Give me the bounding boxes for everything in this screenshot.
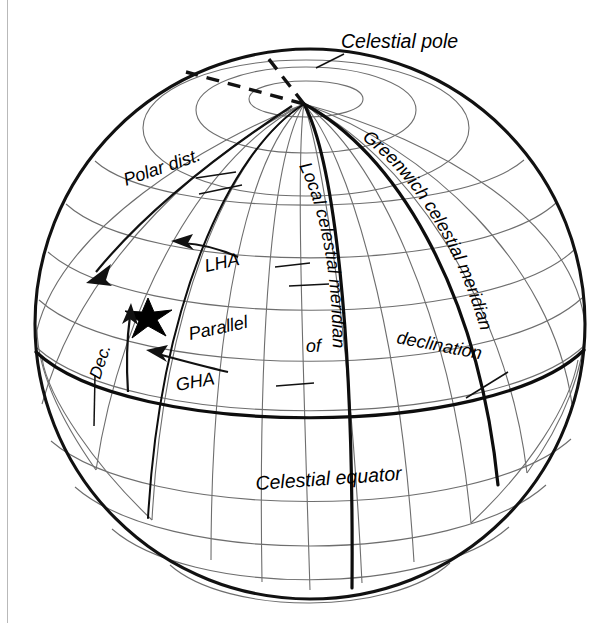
gha-arrowhead [146, 345, 168, 362]
meridian-l [37, 104, 304, 330]
label-local-celestial-meridian-text: Local celestial meridian [295, 159, 348, 349]
local-meridian-leader [289, 284, 329, 286]
celestial-sphere-svg: Celestial pole Celestial equator Polar d… [0, 0, 616, 623]
label-local-celestial-meridian: Local celestial meridian [295, 159, 348, 349]
lha-leader [275, 263, 310, 267]
label-dec: Dec. [86, 342, 115, 381]
parallel-30 [48, 250, 574, 310]
label-polar-distance: Polar dist. [121, 145, 203, 190]
label-gha: GHA [174, 368, 216, 394]
meridian-d [261, 104, 304, 582]
label-parallel: Parallel [187, 312, 251, 344]
greenwich-meridian-leader [196, 172, 236, 178]
label-celestial-pole: Celestial pole [341, 30, 458, 52]
label-of: of [306, 336, 323, 356]
celestial-sphere-figure: Celestial pole Celestial equator Polar d… [0, 0, 616, 623]
label-declination: declination [395, 327, 483, 363]
parallel-minus30 [112, 527, 509, 580]
sphere-outline [35, 49, 585, 599]
dashed-polar-distance-line [186, 72, 304, 104]
label-celestial-equator: Celestial equator [255, 462, 404, 494]
meridian-j [304, 104, 572, 404]
gha-leader [276, 383, 314, 386]
diagram-labels: Celestial pole Celestial equator Polar d… [86, 30, 497, 494]
parallel-minus20 [75, 485, 546, 546]
dec-leader [94, 375, 95, 426]
dec-arrow-line [127, 316, 130, 392]
page-edge-line [7, 0, 8, 623]
label-lha: LHA [203, 249, 241, 276]
